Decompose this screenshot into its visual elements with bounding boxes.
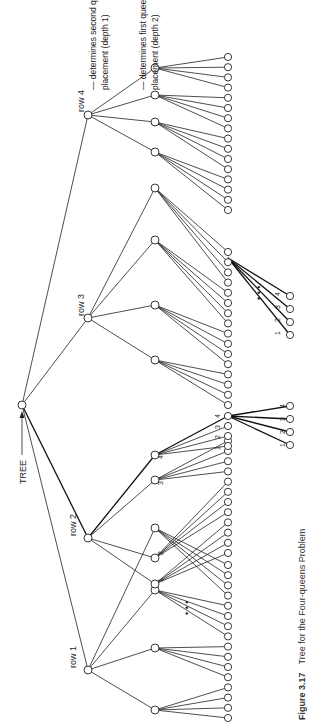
tree-node xyxy=(151,236,159,244)
tree-node xyxy=(224,166,231,173)
child-label-4: 4 xyxy=(157,455,164,459)
tree-node xyxy=(84,534,92,542)
annotation-depth2-line2: placement (depth 2) xyxy=(150,14,160,90)
tree-node xyxy=(224,674,231,681)
child-label-4: 4 xyxy=(214,414,221,418)
tree-nodes xyxy=(18,53,294,721)
tree-node xyxy=(224,684,231,691)
row-label-2: row 2 xyxy=(68,514,78,536)
tree-edge xyxy=(155,305,228,364)
tree-node xyxy=(224,104,231,111)
tree-node xyxy=(151,148,159,156)
tree-node xyxy=(286,331,293,338)
tree-edge xyxy=(155,687,228,710)
tree-node xyxy=(224,653,231,660)
tree-node xyxy=(286,415,293,422)
tree-edge xyxy=(155,360,228,395)
tree-node xyxy=(151,524,159,532)
tree-edge xyxy=(155,95,228,118)
tree-edge xyxy=(155,543,228,584)
child-label-3: 3 xyxy=(214,425,221,429)
tree-node xyxy=(224,509,231,516)
tree-node xyxy=(224,401,231,408)
tree-edge xyxy=(88,318,155,360)
tree-node xyxy=(286,305,293,312)
tree-node xyxy=(224,64,231,71)
tree-edge xyxy=(155,68,228,88)
annotation-depth1-line2: placement (depth 1) xyxy=(100,14,110,90)
tree-node xyxy=(224,145,231,152)
tree-node xyxy=(224,279,231,286)
tree-node xyxy=(286,292,293,299)
tree-node xyxy=(224,612,231,619)
tree-node xyxy=(224,422,231,429)
tree-edge xyxy=(155,95,228,108)
row2-child-labels: 1 2 3 4 xyxy=(157,455,164,582)
tree-edge xyxy=(88,590,155,670)
child-label-2: 2 xyxy=(214,435,221,439)
tree-edge xyxy=(155,122,228,169)
tree-node xyxy=(224,432,231,439)
tree-node xyxy=(224,412,231,419)
row-label-4: row 4 xyxy=(76,90,86,112)
tree-node xyxy=(224,468,231,475)
tree-node xyxy=(224,259,231,266)
tree-edge xyxy=(155,240,228,303)
ellipsis-row3: • • • xyxy=(254,286,264,300)
tree-edge xyxy=(155,648,228,667)
tree-edge xyxy=(155,122,228,149)
tree-node xyxy=(224,135,231,142)
tree-edge xyxy=(88,670,155,710)
tree-edge xyxy=(88,528,155,670)
tree-edge xyxy=(155,502,228,558)
tree-node xyxy=(151,184,159,192)
tree-edge xyxy=(155,188,228,272)
tree-node xyxy=(224,340,231,347)
tree-node xyxy=(224,623,231,630)
tree-edge xyxy=(88,480,155,538)
row-label-3: row 3 xyxy=(76,294,86,316)
tree-edge xyxy=(155,522,228,584)
tree-node xyxy=(224,361,231,368)
tree-node xyxy=(224,488,231,495)
child-label-1: 1 xyxy=(274,331,281,335)
tree-edge xyxy=(155,528,228,596)
tree-edge xyxy=(155,528,228,585)
tree-node xyxy=(224,391,231,398)
tree-node xyxy=(224,299,231,306)
tree-node xyxy=(224,582,231,589)
tree-node xyxy=(224,458,231,465)
tree-edge xyxy=(155,647,228,648)
tree-node xyxy=(224,643,231,650)
tree-node xyxy=(286,318,293,325)
tree-edge xyxy=(155,152,228,210)
tree-node xyxy=(224,74,231,81)
tree-edge xyxy=(88,455,155,538)
tree-node xyxy=(224,694,231,701)
root-label: TREE xyxy=(18,460,28,484)
tree-node xyxy=(224,269,231,276)
tree-node xyxy=(224,498,231,505)
tree-edge xyxy=(155,68,228,77)
tree-node xyxy=(151,356,159,364)
row2-child4-labels: 1 2 3 4 xyxy=(214,414,221,450)
tree-node xyxy=(224,84,231,91)
tree-node xyxy=(224,519,231,526)
child-label-1: 1 xyxy=(214,446,221,450)
tree-node xyxy=(224,94,231,101)
tree-edge xyxy=(155,152,228,200)
tree-node xyxy=(224,371,231,378)
tree-edge xyxy=(155,95,228,98)
tree-diagram: TREE row 1 row 2 row 3 row 4 — determine… xyxy=(0,0,313,728)
tree-edge xyxy=(88,648,155,670)
child-label-4: 4 xyxy=(279,404,286,408)
tree-node xyxy=(224,442,231,449)
child-label-2: 2 xyxy=(274,318,281,322)
tree-edge xyxy=(88,95,155,115)
tree-edge xyxy=(155,122,228,139)
tree-edge xyxy=(155,57,228,68)
tree-node xyxy=(286,441,293,448)
tree-edge xyxy=(155,710,228,718)
tree-node xyxy=(224,196,231,203)
tree-node xyxy=(224,478,231,485)
